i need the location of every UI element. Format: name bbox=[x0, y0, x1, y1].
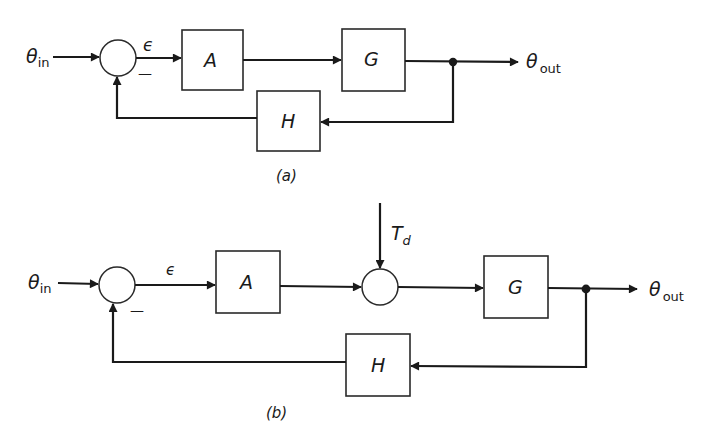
block-g-label-b: G bbox=[508, 278, 523, 297]
minus-sign-a: — bbox=[138, 66, 152, 80]
block-a-label-a: A bbox=[204, 51, 217, 70]
block-a-label-b: A bbox=[240, 273, 253, 292]
caption-a: (a) bbox=[276, 169, 297, 184]
a-to-disturbance-sum-arrow-b bbox=[280, 286, 361, 287]
sum-to-g-arrow-b bbox=[398, 287, 483, 288]
block-diagram-canvas bbox=[0, 0, 708, 446]
output-label-a: θout bbox=[526, 52, 561, 71]
block-h-label-b: H bbox=[371, 356, 385, 375]
disturbance-summing-junction-b bbox=[362, 269, 398, 305]
diagram-b bbox=[58, 203, 637, 396]
output-label-b: θout bbox=[649, 280, 684, 299]
disturbance-label-b: Td bbox=[391, 224, 411, 243]
output-arrow-a bbox=[405, 61, 518, 62]
caption-b: (b) bbox=[266, 406, 287, 421]
error-label-a: ϵ bbox=[143, 37, 153, 54]
summing-junction-b bbox=[99, 267, 135, 303]
minus-sign-b: — bbox=[130, 303, 144, 317]
input-label-b: θin bbox=[28, 273, 51, 292]
diagram-a bbox=[53, 29, 518, 151]
input-label-a: θin bbox=[26, 47, 49, 66]
error-label-b: ϵ bbox=[166, 263, 175, 278]
block-h-label-a: H bbox=[281, 112, 295, 131]
block-g-label-a: G bbox=[364, 50, 379, 69]
output-arrow-b bbox=[548, 288, 637, 289]
summing-junction-a bbox=[100, 40, 136, 76]
input-arrow-b bbox=[58, 283, 98, 284]
